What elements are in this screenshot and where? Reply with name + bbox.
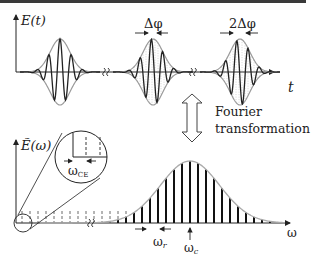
frequency-domain-panel: ωCE Ẽ(ω) ω ωr ωc (14, 131, 297, 256)
freq-y-axis-label: Ẽ(ω) (20, 138, 51, 153)
time-y-axis-label: E(t) (20, 13, 46, 28)
fourier-transform-arrow-icon (182, 94, 202, 142)
phase-shift-label-2: 2Δφ (229, 16, 256, 31)
fourier-label-line2: transformation (215, 121, 310, 136)
frequency-comb-diagram: E(t) t Δφ 2Δφ Fourier transformation (0, 0, 314, 262)
diagram-canvas: E(t) t Δφ 2Δφ Fourier transformation (0, 0, 314, 262)
phase-shift-label-1: Δφ (144, 16, 163, 31)
time-x-axis-label: t (288, 79, 294, 95)
top-border (0, 0, 306, 3)
pulse-3 (200, 39, 280, 105)
freq-x-axis-label: ω (287, 226, 297, 240)
fourier-label-line1: Fourier (215, 104, 262, 119)
center-frequency-label: ωc (184, 241, 199, 256)
time-domain-panel: E(t) t Δφ 2Δφ (16, 13, 294, 105)
rep-rate-label: ωr (153, 235, 168, 250)
